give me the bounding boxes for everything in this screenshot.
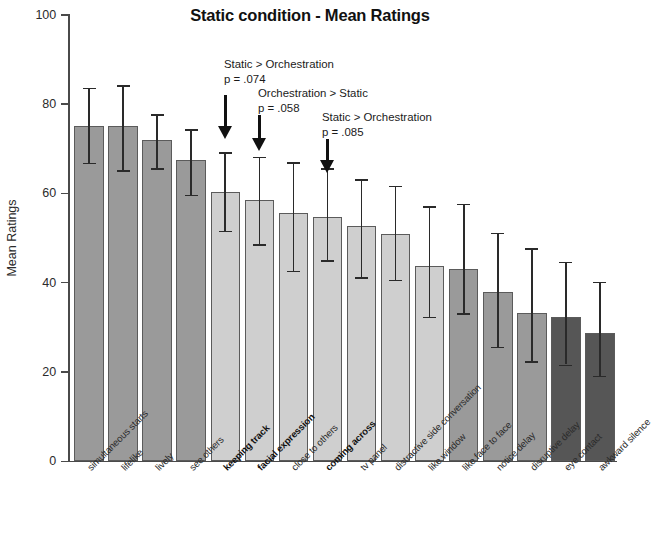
error-bar bbox=[68, 14, 617, 462]
annotation-arrow-icon bbox=[320, 139, 334, 173]
y-axis-tick-label: 80 bbox=[42, 97, 56, 111]
y-axis-tick-mark: 20 bbox=[61, 371, 68, 373]
annotation-comparison-label: Orchestration > Static bbox=[258, 86, 368, 101]
y-axis-tick-mark: 100 bbox=[61, 14, 68, 16]
y-axis-title: Mean Ratings bbox=[5, 199, 19, 276]
annotation-arrow-icon bbox=[252, 115, 266, 151]
annotation-comparison-label: Static > Orchestration bbox=[224, 57, 334, 72]
y-axis-tick-mark: 0 bbox=[61, 461, 68, 463]
arrow-head bbox=[320, 160, 334, 173]
arrow-shaft bbox=[224, 95, 226, 127]
y-axis-tick-label: 20 bbox=[42, 365, 56, 379]
y-axis-tick-mark: 60 bbox=[61, 193, 68, 195]
annotation-p-value: p = .085 bbox=[322, 125, 432, 140]
error-bar-cap-lower bbox=[593, 376, 606, 378]
annotation-1: Static > Orchestrationp = .074 bbox=[224, 57, 334, 87]
arrow-shaft bbox=[326, 139, 328, 161]
annotation-3: Static > Orchestrationp = .085 bbox=[322, 110, 432, 140]
y-axis-tick-mark: 40 bbox=[61, 282, 68, 284]
y-axis-tick-mark: 80 bbox=[61, 103, 68, 105]
error-bar-cap-upper bbox=[593, 282, 606, 284]
plot-area: Mean Ratings 020406080100 bbox=[68, 14, 617, 462]
y-axis-tick-label: 0 bbox=[49, 454, 56, 468]
annotation-comparison-label: Static > Orchestration bbox=[322, 110, 432, 125]
error-bar-line bbox=[599, 282, 601, 376]
arrow-head bbox=[218, 126, 232, 139]
annotation-arrow-icon bbox=[218, 95, 232, 139]
y-axis-tick-label: 60 bbox=[42, 186, 56, 200]
arrow-shaft bbox=[258, 115, 260, 139]
arrow-head bbox=[252, 138, 266, 151]
y-axis-tick-label: 100 bbox=[35, 8, 56, 22]
y-axis-tick-label: 40 bbox=[42, 276, 56, 290]
annotation-p-value: p = .074 bbox=[224, 72, 334, 87]
